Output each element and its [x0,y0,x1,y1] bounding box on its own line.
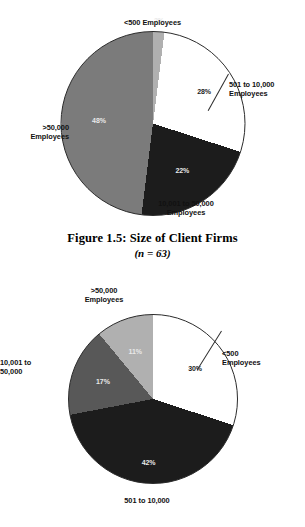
figure-caption-title: Figure 1.5: Size of Client Firms [0,231,305,246]
slice-percent-over-50000-2: 11% [129,348,142,355]
pie-chart-1: 2% 28% 22% 48% [60,31,245,216]
figure-client-firms-chart-2: 30% 42% 17% 11% >50,000 Employees 10,001… [0,285,305,527]
slice-percent-10001-to-50000: 22% [175,167,189,174]
slice-label-501-to-10000: 501 to 10,000 Employees [229,80,305,99]
figure-caption-sample: (n = 63) [0,247,305,259]
slice-label-10001-to-50000: 10,001 to 50,000 Employees [126,199,246,218]
slice-label-501-to-10000-2: 501 to 10,000 [52,496,242,505]
slice-label-under-500: <500 Employees [0,18,305,27]
slice-label-10001-to-50000-2: 10,001 to 50,000 [0,358,70,377]
slice-percent-over-50000: 48% [92,117,106,124]
slice-percent-501-to-10000-2: 42% [142,458,156,465]
slice-percent-10001-to-50000-2: 17% [96,378,110,385]
slice-label-under-500-2: <500 Employees [222,349,288,368]
slice-percent-501-to-10000: 28% [197,87,211,94]
figure-caption: Figure 1.5: Size of Client Firms (n = 63… [0,231,305,259]
slice-label-over-50000: >50,000 Employees [0,123,69,142]
pie-slices-1 [60,31,245,216]
slice-label-over-50000-2: >50,000 Employees [52,286,156,305]
figure-client-firms-chart-1: 2% 28% 22% 48% <500 Employees 501 to 10,… [0,0,305,290]
pie-chart-2: 30% 42% 17% 11% [68,314,238,484]
